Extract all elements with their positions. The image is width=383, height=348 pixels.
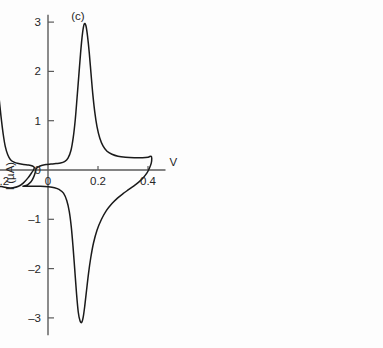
- y-axis-title: I (µA): [4, 162, 16, 191]
- cv-curve-c: [23, 24, 152, 323]
- x-axis-tick-label: 0: [45, 175, 51, 187]
- y-axis-tick-label: 0: [35, 164, 41, 176]
- cyclic-voltammogram-plot: –0.6–0.4–0.200.20.43210–1–2–3VI (µA)(a)(…: [0, 0, 383, 348]
- y-axis-tick-label: –1: [28, 213, 41, 225]
- x-axis-tick-label: 0.4: [140, 175, 157, 187]
- y-axis-tick-label: –2: [28, 263, 41, 275]
- panel-label-2: (c): [71, 10, 85, 22]
- x-axis-tick-label: 0.2: [90, 175, 106, 187]
- y-axis-tick-label: –3: [28, 312, 41, 324]
- figure-canvas: –0.6–0.4–0.200.20.43210–1–2–3VI (µA)(a)(…: [0, 0, 383, 348]
- y-axis-tick-label: 1: [35, 115, 41, 127]
- y-axis-tick-label: 2: [35, 65, 41, 77]
- y-axis-tick-label: 3: [35, 16, 41, 28]
- curves-group: [0, 24, 152, 323]
- x-axis-title: V: [170, 156, 178, 168]
